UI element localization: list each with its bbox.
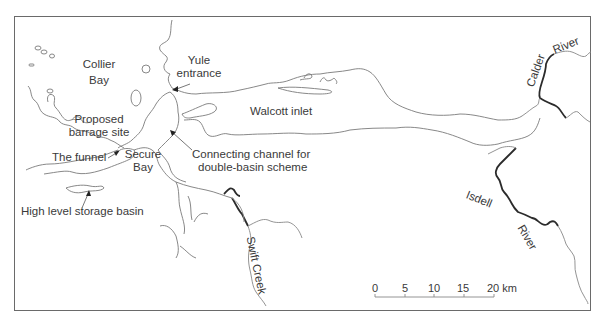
label-yule: Yule [172,54,226,67]
label-collier-bay: Collier Bay [76,58,122,87]
scale-tick-0: 0 [372,282,378,294]
label-connecting-2: double-basin scheme [192,161,310,174]
label-entrance: entrance [172,67,226,80]
label-collier: Collier [76,58,122,71]
label-proposed: Proposed [68,113,130,126]
scale-tick-20km: 20 km [487,282,517,294]
isdell-river [488,147,588,305]
yule-entrance-coastline [118,20,540,150]
label-bay: Bay [76,74,122,87]
label-proposed-barrage-site: Proposed barrage site [68,113,130,139]
scale-tick-5: 5 [402,282,408,294]
label-barrage-site: barrage site [68,126,130,139]
label-arrows [82,84,192,208]
label-secure-bay: Secure Bay [124,148,162,174]
label-secure-bay-2: Bay [124,161,162,174]
label-walcott-inlet: Walcott inlet [250,105,312,118]
label-secure: Secure [124,148,162,161]
label-connecting-1: Connecting channel for [192,148,310,161]
walcott-inlet-reefs [278,74,337,94]
label-the-funnel: The funnel [52,151,106,164]
scale-bar [375,294,494,297]
label-connecting-channel: Connecting channel for double-basin sche… [192,148,310,174]
scale-tick-15: 15 [457,282,469,294]
label-yule-entrance: Yule entrance [172,54,226,80]
label-high-level-storage-basin: High level storage basin [21,205,144,218]
scale-tick-10: 10 [428,282,440,294]
